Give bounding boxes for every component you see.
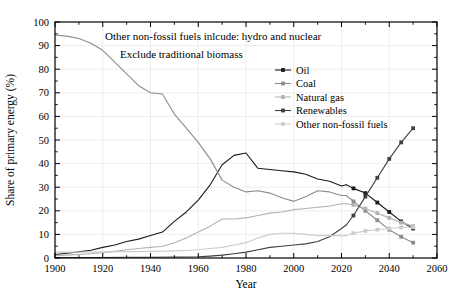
legend-marker-swatch [281,68,285,72]
y-tick-label: 40 [39,158,50,169]
legend-label: Oil [296,65,310,76]
y-tick-label: 80 [39,64,50,75]
y-axis-title: Share of primary energy (%) [4,74,17,206]
legend-label: Natural gas [296,92,344,103]
y-tick-label: 20 [39,205,50,216]
y-tick-label: 100 [33,17,49,28]
x-tick-label: 1940 [140,263,161,274]
x-tick-label: 1980 [236,263,257,274]
chart-background [0,0,465,291]
x-tick-label: 2020 [331,263,352,274]
series-marker [375,176,379,180]
series-marker [387,227,391,231]
series-marker [387,157,391,161]
series-marker [387,210,391,214]
y-tick-label: 0 [44,253,49,264]
series-marker [352,214,356,218]
series-marker [387,216,391,220]
legend-marker-swatch [281,109,285,113]
annotation-line-1: Other non-fossil fuels inlcude: hydro an… [105,30,322,42]
series-marker [375,218,379,222]
x-axis-title: Year [235,278,256,290]
legend-label: Coal [296,78,316,89]
legend-marker-swatch [281,82,285,86]
series-marker [375,201,379,205]
series-marker [352,186,356,190]
annotation-line-2: Exclude traditional biomass [120,48,243,60]
y-tick-label: 60 [39,111,50,122]
series-marker [411,225,415,229]
energy-share-line-chart: 1900192019401960198020002020204020600102… [0,0,465,291]
series-marker [399,235,403,239]
legend-label: Renewables [296,105,347,116]
series-marker [375,228,379,232]
series-marker [363,207,367,211]
x-tick-label: 1960 [188,263,209,274]
series-marker [399,221,403,225]
y-tick-label: 10 [39,229,50,240]
y-tick-label: 50 [39,135,50,146]
x-tick-label: 1900 [45,263,66,274]
series-marker [352,203,356,207]
y-tick-label: 30 [39,182,50,193]
series-marker [375,211,379,215]
x-tick-label: 1920 [92,263,113,274]
series-marker [399,140,403,144]
series-marker [363,195,367,199]
series-marker [411,126,415,130]
series-marker [411,241,415,245]
series-marker [352,199,356,203]
y-tick-label: 70 [39,87,50,98]
x-tick-label: 2040 [379,263,400,274]
series-marker [352,231,356,235]
legend-marker-swatch [281,122,285,126]
chart-figure: 1900192019401960198020002020204020600102… [0,0,465,291]
y-tick-label: 90 [39,40,50,51]
x-tick-label: 2000 [283,263,304,274]
x-tick-label: 2060 [427,263,448,274]
series-marker [363,229,367,233]
series-marker [399,225,403,229]
legend-label: Other non-fossil fuels [296,119,388,130]
legend-marker-swatch [281,95,285,99]
